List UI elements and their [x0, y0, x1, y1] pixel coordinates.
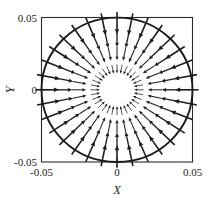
vector-arrow-head	[174, 99, 179, 103]
vector-arrow-head	[98, 81, 101, 83]
vector-arrow-shaft	[136, 118, 142, 126]
vector-arrow-shaft	[108, 123, 110, 133]
vector-arrow-shaft	[75, 73, 84, 77]
vector-arrow-head	[120, 106, 122, 109]
vector-arrow-shaft	[102, 106, 105, 111]
vector-field-arrows	[36, 12, 199, 168]
vector-arrow-shaft	[92, 97, 98, 99]
vector-arrow-head	[102, 144, 106, 149]
vector-arrow-head	[115, 145, 119, 150]
vector-arrow-head	[120, 70, 122, 73]
vector-arrow-head	[115, 56, 118, 60]
vector-arrow-head	[112, 70, 114, 73]
vector-arrow-shaft	[107, 108, 109, 113]
vector-arrow-shaft	[85, 59, 92, 66]
vector-field-chart: 0.05 0 -0.05 -0.05 0 0.05 X Y	[0, 0, 213, 210]
vector-arrow-shaft	[141, 18, 148, 34]
vector-arrow-shaft	[141, 146, 148, 162]
vector-arrow-shaft	[91, 94, 97, 95]
vector-arrow-shaft	[75, 103, 84, 107]
vector-arrow-head	[147, 95, 151, 98]
vector-arrow-head	[58, 111, 64, 115]
vector-arrow-shaft	[95, 101, 100, 104]
vector-arrow-head	[68, 97, 73, 101]
vector-arrow-shaft	[131, 72, 135, 76]
vector-arrow-head	[116, 106, 119, 109]
vector-arrow-head	[83, 95, 87, 98]
vector-arrow-head	[108, 105, 110, 108]
vector-arrow-shaft	[124, 123, 126, 133]
vector-arrow-head	[71, 70, 76, 74]
vector-arrow-shaft	[151, 96, 161, 98]
vector-arrow-head	[106, 132, 110, 137]
vector-arrow-shaft	[121, 109, 122, 115]
vector-arrow-shaft	[91, 85, 97, 86]
vector-arrow-shaft	[124, 48, 126, 58]
vector-arrow-head	[84, 101, 88, 104]
vector-arrow-head	[161, 79, 166, 83]
vector-arrow-shaft	[92, 80, 98, 82]
vector-arrow-head	[127, 144, 131, 149]
vector-arrow-head	[171, 65, 177, 69]
vector-arrow-head	[127, 30, 131, 35]
vector-arrow-shaft	[80, 66, 89, 71]
y-axis-title: Y	[3, 84, 17, 93]
vector-arrow-shaft	[100, 121, 104, 130]
vector-arrow-shaft	[92, 54, 98, 62]
vector-arrow-shaft	[121, 65, 122, 71]
vector-arrow-head	[55, 99, 60, 103]
vector-arrow-head	[175, 88, 180, 92]
vector-arrow-head	[99, 99, 102, 102]
vector-arrow-head	[102, 30, 106, 35]
y-tick-label-top: 0.05	[18, 12, 38, 24]
vector-arrow-shaft	[125, 66, 127, 71]
vector-arrow-shaft	[142, 59, 149, 66]
vector-arrow-shaft	[100, 50, 104, 59]
vector-arrow-head	[133, 96, 136, 98]
vector-arrow-shaft	[128, 69, 131, 74]
vector-arrow-head	[115, 43, 119, 47]
vector-arrow-shaft	[80, 108, 89, 113]
vector-arrow-shaft	[125, 108, 127, 113]
vector-arrow-head	[83, 82, 87, 85]
vector-arrow-head	[122, 119, 125, 123]
x-axis-title: X	[112, 183, 122, 197]
vector-arrow-shaft	[136, 80, 142, 82]
vector-arrow-shaft	[175, 113, 192, 120]
vector-arrow-shaft	[137, 94, 143, 95]
vector-arrow-head	[162, 88, 166, 92]
vector-arrow-head	[109, 57, 112, 61]
vector-arrow-shaft	[179, 75, 197, 78]
vector-arrow-shaft	[149, 73, 158, 77]
x-tick-label-right: 0.05	[183, 166, 203, 178]
vector-arrow-head	[71, 106, 76, 110]
vector-arrow-shaft	[129, 149, 133, 166]
vector-arrow-head	[133, 81, 136, 83]
vector-arrow-shaft	[142, 113, 149, 120]
vector-arrow-head	[106, 43, 110, 48]
vector-arrow-head	[146, 101, 150, 104]
vector-arrow-shaft	[134, 101, 139, 104]
vector-arrow-head	[116, 70, 119, 73]
vector-arrow-shaft	[102, 69, 105, 74]
y-tick-label-mid: 0	[32, 84, 38, 96]
vector-arrow-shaft	[73, 81, 83, 83]
vector-arrow-shaft	[112, 109, 113, 115]
vector-arrow-head	[99, 78, 102, 81]
vector-arrow-shaft	[92, 118, 98, 126]
vector-arrow-shaft	[86, 18, 93, 34]
vector-arrow-head	[148, 88, 152, 91]
vector-arrow-head	[115, 133, 119, 137]
vector-arrow-head	[131, 78, 134, 81]
vector-arrow-shaft	[179, 102, 197, 105]
vector-arrow-shaft	[137, 85, 143, 86]
vector-arrow-shaft	[37, 102, 55, 105]
vector-arrow-head	[134, 92, 137, 94]
vector-arrow-head	[55, 76, 60, 80]
vector-arrow-head	[124, 71, 126, 74]
vector-arrow-head	[68, 88, 72, 92]
vector-arrow-head	[146, 76, 150, 79]
vector-arrow-shaft	[101, 149, 105, 166]
vector-arrow-head	[108, 71, 110, 74]
vector-arrow-head	[134, 85, 137, 87]
